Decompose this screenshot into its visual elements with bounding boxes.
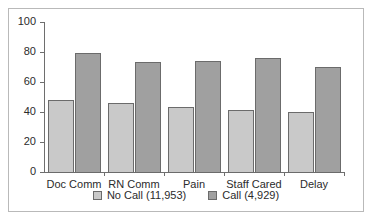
y-axis-tick-label: 60: [24, 75, 36, 88]
bar[interactable]: [168, 107, 194, 173]
bar[interactable]: [75, 53, 101, 173]
y-axis-tick: 20: [40, 142, 44, 143]
chart-frame: 020406080100 Doc CommRN CommPainStaff Ca…: [8, 8, 364, 212]
y-axis-tick-label: 80: [24, 45, 36, 58]
y-axis-tick-label: 40: [24, 105, 36, 118]
y-axis-tick: 60: [40, 82, 44, 83]
y-axis-tick-label: 0: [30, 165, 36, 178]
bar-group: [228, 23, 281, 173]
bar[interactable]: [315, 67, 341, 174]
bar[interactable]: [228, 110, 254, 173]
bar[interactable]: [288, 112, 314, 174]
x-axis-tick: [224, 172, 225, 176]
y-axis-tick: 100: [40, 22, 44, 23]
y-axis-tick-label: 20: [24, 135, 36, 148]
y-axis-tick: 40: [40, 112, 44, 113]
bar-group: [48, 23, 101, 173]
legend-item[interactable]: No Call (11,953): [93, 189, 186, 202]
y-axis-tick: 80: [40, 52, 44, 53]
plot-area: 020406080100 Doc CommRN CommPainStaff Ca…: [44, 22, 344, 174]
bar[interactable]: [48, 100, 74, 174]
bar-group: [288, 23, 341, 173]
x-axis-tick: [284, 172, 285, 176]
x-axis-tick: [104, 172, 105, 176]
x-axis-tick: [164, 172, 165, 176]
bar[interactable]: [195, 61, 221, 174]
bar[interactable]: [255, 58, 281, 174]
legend-swatch-icon: [93, 191, 102, 200]
bar[interactable]: [135, 62, 161, 173]
legend-label: Call (4,929): [222, 189, 279, 202]
bar-group: [108, 23, 161, 173]
legend-swatch-icon: [208, 191, 217, 200]
y-axis-line: [44, 22, 45, 173]
legend-item[interactable]: Call (4,929): [208, 189, 279, 202]
chart-legend: No Call (11,953)Call (4,929): [9, 189, 363, 202]
y-axis-tick-label: 100: [18, 15, 36, 28]
x-axis-tick: [344, 172, 345, 176]
legend-label: No Call (11,953): [107, 189, 186, 202]
y-axis-tick: 0: [40, 172, 44, 173]
bar-group: [168, 23, 221, 173]
bar[interactable]: [108, 103, 134, 174]
